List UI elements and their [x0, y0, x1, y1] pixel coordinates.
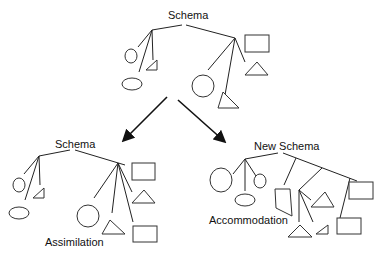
quadrilateral-shape [275, 189, 292, 216]
triangle-shape [288, 225, 312, 237]
rectangle-shape [133, 226, 157, 242]
rectangle-shape [245, 35, 269, 52]
ellipse-shape [122, 78, 142, 90]
accommodation-label: Accommodation [209, 215, 288, 226]
assimilation-label: Assimilation [45, 237, 104, 248]
circle-shape [254, 174, 266, 188]
triangle-shape [245, 62, 268, 75]
circle-shape [210, 168, 232, 192]
schema-diagram [0, 0, 386, 255]
ellipse-shape [9, 207, 29, 219]
arrow-to-assimilation [124, 97, 167, 140]
top-schema-label: Schema [168, 10, 208, 21]
circle-shape [77, 205, 99, 227]
triangle-shape [218, 92, 239, 108]
triangle-shape [316, 225, 328, 234]
ellipse-shape [235, 194, 255, 206]
rectangle-shape [349, 182, 373, 199]
triangle-shape [33, 188, 44, 198]
top-schema-tree [122, 25, 269, 108]
rectangle-shape [337, 218, 361, 234]
triangle-shape [146, 60, 157, 70]
circle-shape [192, 75, 214, 97]
left-schema-label: Schema [55, 139, 95, 150]
circle-shape [13, 178, 25, 192]
circle-shape [125, 49, 137, 63]
triangle-shape [102, 220, 125, 234]
rectangle-shape [132, 163, 155, 180]
assimilation-schema-tree [9, 150, 157, 242]
arrow-to-accommodation [178, 100, 224, 141]
triangle-shape [132, 190, 155, 203]
new-schema-label: New Schema [254, 141, 319, 152]
triangle-shape [311, 192, 334, 207]
